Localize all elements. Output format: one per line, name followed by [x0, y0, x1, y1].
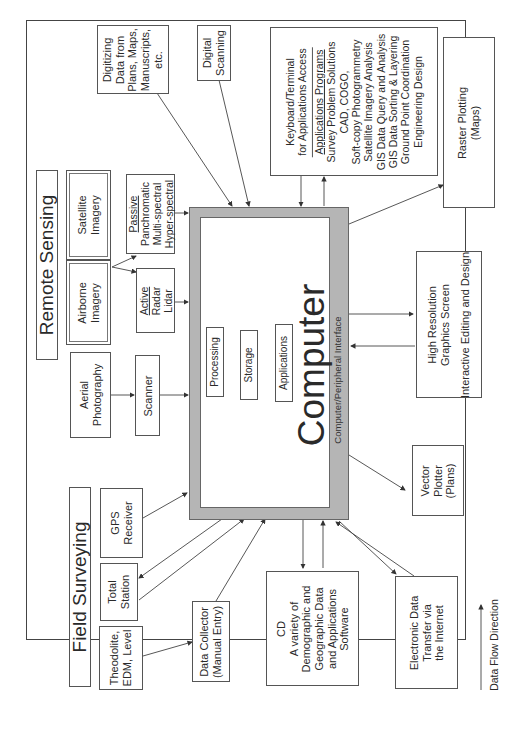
digitizing-box: Digitizing Data from Plans, Maps, Manusc…: [97, 25, 169, 94]
graphics-screen-box: High Resolution Graphics Screen Interact…: [416, 251, 482, 398]
storage-box: Storage: [240, 330, 258, 400]
electronic-transfer-box: Electronic Data Transfer via the Interne…: [395, 576, 458, 689]
cd-box: CD A variety of Demographic and Geograph…: [266, 571, 359, 686]
active-sensing-box: Active Radar Lidar: [136, 268, 175, 333]
gps-receiver-box: GPS Receiver: [100, 488, 143, 558]
scanner-box: Scanner: [135, 355, 160, 436]
legend: Data Flow Direction: [486, 590, 502, 700]
passive-sensing-box: Passive Panchromatic Multi-spectral Hype…: [126, 174, 175, 254]
interface-label: Computer/Peripheral Interface: [330, 280, 346, 480]
satellite-imagery-box: Satellite Imagery: [66, 170, 111, 260]
keyboard-applications-box: Keyboard/Terminal for Applications Acces…: [270, 27, 438, 176]
airborne-imagery-box: Airborne Imagery: [66, 260, 111, 345]
remote-sensing-title: Remote Sensing: [36, 170, 58, 360]
field-surveying-title: Field Surveying: [69, 487, 91, 687]
vector-plotter-box: Vector Plotter (Plans): [412, 445, 464, 516]
theodolite-box: Theodolite, EDM, Level: [99, 626, 143, 690]
data-collector-box: Data Collector (Manual Entry): [192, 601, 230, 682]
computer-title: Computer: [292, 290, 332, 440]
total-station-box: Total Station: [100, 563, 138, 621]
digital-scanning-box: Digital Scanning: [197, 25, 231, 81]
processing-box: Processing: [206, 327, 224, 397]
aerial-photography-box: Aerial Photography: [70, 352, 111, 438]
raster-plotting: Raster Plotting (Maps): [443, 37, 495, 208]
